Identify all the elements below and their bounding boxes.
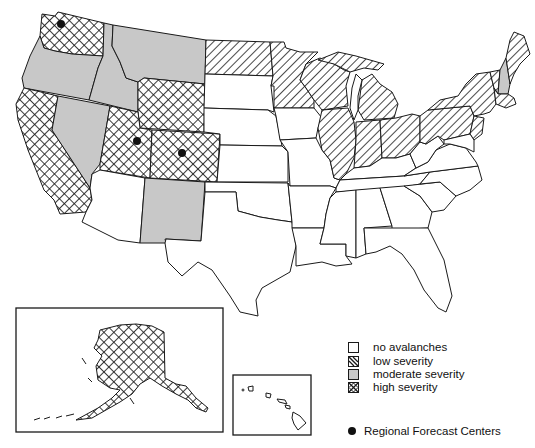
legend-forecast-centers-label: Regional Forecast Centers	[364, 425, 501, 437]
swatch-no-avalanches-icon	[348, 342, 359, 353]
state-arizona	[82, 170, 145, 243]
legend-label: high severity	[373, 381, 438, 394]
forecast-center-dot	[57, 20, 65, 28]
legend-item-none: no avalanches	[348, 341, 464, 354]
state-north-dakota	[205, 40, 273, 76]
alaska-inset	[16, 308, 223, 432]
hawaii-inset	[233, 375, 311, 435]
state-south-dakota	[204, 74, 274, 112]
state-kansas	[217, 145, 288, 182]
state-wyoming	[138, 78, 205, 132]
state-maine	[506, 32, 530, 84]
legend-label: moderate severity	[373, 368, 464, 381]
legend-label: low severity	[373, 355, 433, 368]
state-iowa	[274, 108, 322, 140]
state-montana	[112, 25, 206, 84]
contiguous-us	[16, 12, 530, 316]
state-colorado	[150, 130, 220, 182]
swatch-moderate-severity-icon	[348, 369, 359, 380]
legend-label: no avalanches	[373, 341, 447, 354]
state-florida	[364, 228, 452, 312]
legend-item-high: high severity	[348, 381, 464, 394]
swatch-high-severity-icon	[348, 382, 359, 393]
state-new-mexico	[140, 178, 205, 243]
state-michigan-lower	[358, 74, 398, 120]
legend: no avalanches low severity moderate seve…	[348, 341, 464, 395]
forecast-center-dot	[133, 137, 141, 145]
legend-item-moderate: moderate severity	[348, 368, 464, 381]
legend-forecast-centers: Regional Forecast Centers	[348, 425, 501, 437]
forecast-center-dot-icon	[348, 427, 356, 435]
swatch-low-severity-icon	[348, 356, 359, 367]
legend-item-low: low severity	[348, 354, 464, 367]
forecast-center-dot	[178, 149, 186, 157]
